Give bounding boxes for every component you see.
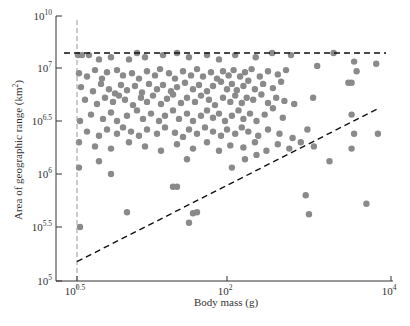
data-point <box>232 131 238 137</box>
data-point <box>258 91 264 97</box>
data-point <box>247 110 253 116</box>
data-point <box>120 124 126 130</box>
data-point <box>210 128 216 134</box>
x-axis-title: Body mass (g) <box>194 296 259 309</box>
data-point <box>118 82 124 88</box>
data-point <box>132 83 138 89</box>
data-point <box>286 145 292 151</box>
data-point <box>157 66 163 72</box>
data-point <box>220 95 226 101</box>
data-point <box>110 99 116 105</box>
data-point <box>77 224 83 230</box>
y-tick-label: 106 <box>37 166 52 180</box>
data-point <box>190 145 196 151</box>
data-point <box>242 156 248 162</box>
data-point <box>218 79 224 85</box>
data-point <box>158 101 164 107</box>
data-point <box>124 209 130 215</box>
data-point <box>92 67 98 73</box>
data-point <box>114 131 120 137</box>
data-point <box>144 126 150 132</box>
data-point <box>148 110 154 116</box>
data-point <box>98 81 104 87</box>
data-point <box>348 145 354 151</box>
data-point <box>120 72 126 78</box>
data-point <box>212 102 218 108</box>
data-point <box>363 201 369 207</box>
data-point <box>220 68 226 74</box>
data-point <box>194 131 200 137</box>
data-point <box>210 83 216 89</box>
data-point <box>116 92 122 98</box>
data-point <box>172 130 178 136</box>
data-point <box>289 135 295 141</box>
data-point <box>225 72 231 78</box>
data-point <box>239 124 245 130</box>
data-point <box>78 84 84 90</box>
data-point <box>265 68 271 74</box>
data-point <box>150 92 156 98</box>
data-point <box>218 133 224 139</box>
data-point <box>84 73 90 79</box>
data-point <box>176 116 182 122</box>
data-point <box>170 91 176 97</box>
data-point <box>252 139 258 145</box>
data-point <box>104 126 110 132</box>
data-point <box>270 105 276 111</box>
data-point <box>192 99 198 105</box>
data-point <box>237 73 243 79</box>
data-point <box>250 97 256 103</box>
data-point <box>126 139 132 145</box>
data-point <box>198 92 204 98</box>
data-point <box>126 56 132 62</box>
data-point <box>202 124 208 130</box>
data-point <box>82 97 88 103</box>
data-point <box>240 144 246 150</box>
data-point <box>156 118 162 124</box>
y-ticks: 105105.5106106.51071010 <box>32 8 62 287</box>
data-point <box>184 110 190 116</box>
data-point <box>278 79 284 85</box>
x-ticks: 100.5102104 <box>65 276 397 297</box>
data-point <box>257 73 263 79</box>
data-point <box>184 95 190 101</box>
data-point <box>158 148 164 154</box>
data-point <box>186 220 192 226</box>
data-point <box>311 143 317 149</box>
data-point <box>124 113 130 119</box>
data-point <box>190 118 196 124</box>
data-point <box>198 113 204 119</box>
data-point <box>144 68 150 74</box>
data-point <box>244 95 250 101</box>
data-point <box>142 54 148 60</box>
data-point <box>96 133 102 139</box>
data-point <box>235 107 241 113</box>
data-point <box>186 54 192 60</box>
data-point <box>184 156 190 162</box>
data-point <box>139 89 145 95</box>
data-point <box>134 107 140 113</box>
data-point <box>265 100 271 106</box>
x-tick-label: 102 <box>218 283 233 297</box>
data-point <box>253 152 259 158</box>
data-point <box>253 118 259 124</box>
data-point <box>104 69 110 75</box>
data-point <box>102 95 108 101</box>
x-tick-label: 100.5 <box>65 283 86 297</box>
data-point <box>230 67 236 73</box>
y-axis-title: Area of geographic range (km2) <box>11 80 25 220</box>
data-point <box>128 128 134 134</box>
data-point <box>174 141 180 147</box>
data-point <box>160 82 166 88</box>
data-points <box>75 50 381 230</box>
data-point <box>114 67 120 73</box>
data-point <box>280 115 286 121</box>
data-point <box>281 98 287 104</box>
data-point <box>154 131 160 137</box>
data-point <box>227 99 233 105</box>
data-point <box>210 115 216 121</box>
data-point <box>154 86 160 92</box>
data-point <box>162 124 168 130</box>
data-point <box>84 128 90 134</box>
data-point <box>216 110 222 116</box>
